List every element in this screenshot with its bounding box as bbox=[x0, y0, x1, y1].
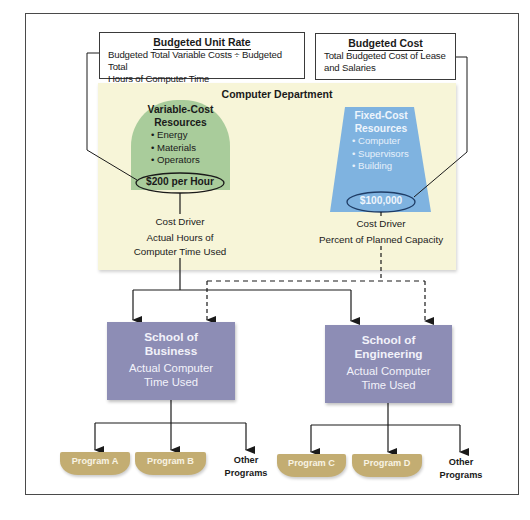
school-name: School ofEngineering bbox=[325, 325, 452, 361]
program-b: Program B bbox=[135, 452, 206, 475]
school-business-box: School ofBusiness Actual ComputerTime Us… bbox=[107, 322, 235, 400]
variable-driver-line2: Computer Time Used bbox=[110, 245, 250, 259]
fixed-item: • Computer bbox=[330, 135, 432, 148]
school-subtitle: Actual ComputerTime Used bbox=[325, 364, 452, 392]
variable-driver-line1: Actual Hours of bbox=[110, 231, 250, 245]
program-a: Program A bbox=[60, 452, 130, 475]
program-d: Program D bbox=[352, 454, 422, 477]
fixed-driver-line1: Percent of Planned Capacity bbox=[306, 233, 456, 247]
fixed-amount-label: $100,000 bbox=[347, 195, 415, 206]
fixed-item: • Building bbox=[330, 160, 432, 173]
other-programs-business: OtherPrograms bbox=[216, 454, 276, 480]
school-name: School ofBusiness bbox=[107, 322, 235, 358]
variable-driver-label: Cost Driver bbox=[110, 215, 250, 229]
fixed-cost-title1: Fixed-Cost bbox=[330, 110, 432, 123]
fixed-cost-resources: Fixed-Cost Resources • Computer • Superv… bbox=[330, 110, 432, 173]
school-engineering-box: School ofEngineering Actual ComputerTime… bbox=[325, 325, 452, 403]
school-subtitle: Actual ComputerTime Used bbox=[107, 361, 235, 389]
variable-rate-label: $200 per Hour bbox=[136, 176, 224, 187]
other-programs-engineering: OtherPrograms bbox=[431, 456, 491, 482]
fixed-cost-driver: Cost Driver Percent of Planned Capacity bbox=[306, 217, 456, 247]
fixed-driver-label: Cost Driver bbox=[306, 217, 456, 231]
fixed-cost-title2: Resources bbox=[330, 123, 432, 136]
fixed-item: • Supervisors bbox=[330, 148, 432, 161]
variable-cost-driver: Cost Driver Actual Hours of Computer Tim… bbox=[110, 215, 250, 259]
connectors bbox=[0, 0, 530, 520]
program-c: Program C bbox=[277, 454, 346, 477]
